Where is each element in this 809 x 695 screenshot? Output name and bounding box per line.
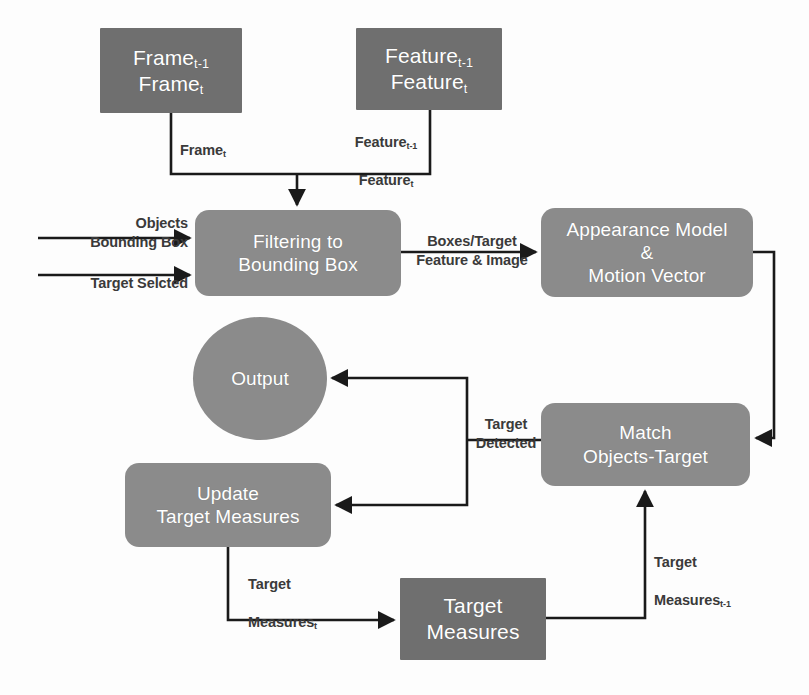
node-appearance-line1: Appearance Model <box>566 219 727 240</box>
node-features-sub2: t <box>464 82 468 96</box>
edge-label-objects-bounding-box: Objects Bounding Box <box>48 195 188 252</box>
edge-label-target-detected-text: Target Detected <box>476 416 536 451</box>
node-appearance-line3: Motion Vector <box>588 265 705 286</box>
node-update-target-measures[interactable]: Update Target Measures <box>125 463 331 547</box>
edge-label-measures-prev-line2: Measures <box>654 592 720 608</box>
node-measures-line2: Measures <box>426 620 519 643</box>
node-frames-line1: Frame <box>133 46 194 69</box>
edge-label-target-selected-text: Target Selcted <box>91 275 188 291</box>
edge-label-feature-sub2: t <box>410 179 413 189</box>
node-output[interactable]: Output <box>193 317 327 440</box>
edge-label-boxes-target-text: Boxes/Target Feature & Image <box>416 233 527 268</box>
node-appearance-model[interactable]: Appearance Model & Motion Vector <box>541 208 753 297</box>
flowchart-canvas: Framet-1 Framet Featuret-1 Featuret Filt… <box>0 0 809 695</box>
edge-label-measures-prev-sub: t-1 <box>720 599 731 609</box>
node-filtering-line2: Bounding Box <box>238 254 358 275</box>
node-features[interactable]: Featuret-1 Featuret <box>356 28 502 110</box>
node-frames-line2: Frame <box>139 72 200 95</box>
node-frames[interactable]: Framet-1 Framet <box>100 28 242 113</box>
edge-measures-to-match <box>546 491 645 618</box>
edge-label-feature-sub1: t-1 <box>407 141 418 151</box>
edge-label-feature-line2: Feature <box>359 172 411 188</box>
edge-label-measures-t-line1: Target <box>248 576 291 592</box>
edge-branch-to-update <box>336 440 467 505</box>
edge-label-feature-line1: Feature <box>355 134 407 150</box>
node-update-line2: Target Measures <box>156 506 299 527</box>
edge-label-features: Featuret-1 Featuret <box>330 114 442 189</box>
node-output-label: Output <box>231 368 289 389</box>
node-appearance-line2: & <box>641 242 654 263</box>
edge-label-target-measures-t: Target Measurest <box>248 556 378 631</box>
node-features-line1: Feature <box>385 44 458 67</box>
node-match-line1: Match <box>619 422 671 443</box>
node-features-line2: Feature <box>391 70 464 93</box>
node-measures-line1: Target <box>444 594 503 617</box>
node-match-objects-target[interactable]: Match Objects-Target <box>541 403 750 486</box>
node-filtering-to-bounding-box[interactable]: Filtering to Bounding Box <box>195 210 401 296</box>
edge-label-measures-t-sub: t <box>314 621 317 631</box>
node-target-measures[interactable]: Target Measures <box>400 578 546 660</box>
node-filtering-line1: Filtering to <box>253 231 343 252</box>
edge-label-target-measures-prev: Target Measurest-1 <box>654 534 784 609</box>
edge-label-frame-t-text: Frame <box>180 142 223 158</box>
node-features-sub1: t-1 <box>458 56 473 70</box>
node-match-line2: Objects-Target <box>583 446 708 467</box>
node-frames-sub1: t-1 <box>194 57 209 71</box>
edge-label-boxes-target: Boxes/Target Feature & Image <box>406 213 538 270</box>
edge-label-target-detected: Target Detected <box>470 396 542 453</box>
edge-appearance-to-match <box>753 252 774 438</box>
edge-label-frame-t: Framet <box>180 122 270 160</box>
edge-label-measures-prev-line1: Target <box>654 554 697 570</box>
node-update-line1: Update <box>197 483 259 504</box>
edge-branch-to-output <box>332 378 467 440</box>
node-frames-sub2: t <box>200 83 204 97</box>
edge-label-frame-t-sub: t <box>223 149 226 159</box>
edge-label-measures-t-line2: Measures <box>248 614 314 630</box>
edge-label-target-selected: Target Selcted <box>48 255 188 293</box>
edge-label-objects-bounding-box-text: Objects Bounding Box <box>90 215 188 250</box>
